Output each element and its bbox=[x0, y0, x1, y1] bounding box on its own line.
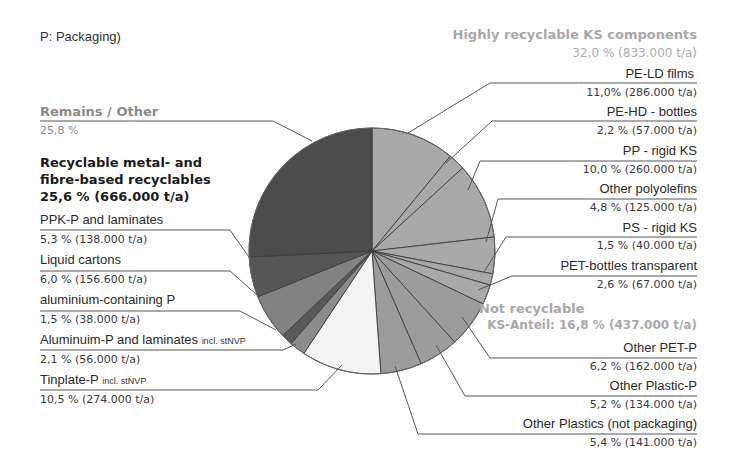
label-tinplate: Tinplate-P incl. stNVP bbox=[40, 373, 146, 386]
label-other-pet-name: Other PET-P bbox=[623, 341, 697, 354]
label-pet-transp-name: PET-bottles transparent bbox=[560, 259, 697, 272]
label-alu-lam: Aluminuim-P and laminates incl. stNVP bbox=[40, 333, 246, 346]
label-alu-cont-name: aluminium-containing P bbox=[40, 293, 175, 306]
label-alu-lam-name: Aluminuim-P and laminates bbox=[40, 332, 198, 347]
group-metal-fibre-label-line2: fibre-based recyclables bbox=[40, 171, 211, 188]
pie-slice-remains-other bbox=[249, 128, 372, 257]
label-ppk-name: PPK-P and laminates bbox=[40, 213, 163, 226]
chart-title: P: Packaging) bbox=[40, 30, 121, 43]
label-pe-ld-name: PE-LD films bbox=[625, 67, 694, 80]
label-other-po-value: 4,8 % (125.000 t/a) bbox=[590, 202, 697, 213]
label-liquid-value: 6,0 % (156.600 t/a) bbox=[40, 274, 147, 285]
label-pe-hd-name: PE-HD - bottles bbox=[607, 105, 697, 118]
group-remains-label: Remains / Other bbox=[40, 105, 158, 118]
label-other-pet-value: 6,2 % (162.000 t/a) bbox=[590, 361, 697, 372]
label-ps-name: PS - rigid KS bbox=[623, 221, 697, 234]
label-other-plastics-value: 5,4 % (141.000 t/a) bbox=[590, 437, 697, 448]
leader-remains bbox=[40, 121, 312, 141]
label-alu-cont-value: 1,5 % (38.000 t/a) bbox=[40, 314, 140, 325]
label-alu-lam-value: 2,1 % (56.000 t/a) bbox=[40, 354, 140, 365]
group-highly-recyclable-value: 32,0 % (833.000 t/a) bbox=[572, 47, 697, 59]
group-highly-recyclable-label: Highly recyclable KS components bbox=[453, 28, 697, 41]
pie-slices bbox=[249, 128, 495, 374]
label-pe-ld-value: 11,0% (286.000 t/a) bbox=[586, 87, 697, 98]
label-pet-transp-value: 2,6 % (67.000 t/a) bbox=[597, 279, 697, 290]
label-pp-name: PP - rigid KS bbox=[623, 144, 697, 157]
label-other-plastic-p-value: 5,2 % (134.000 t/a) bbox=[590, 399, 697, 410]
label-ps-value: 1,5 % (40.000 t/a) bbox=[597, 240, 697, 251]
label-pp-value: 10,0 % (260.000 t/a) bbox=[583, 164, 697, 175]
group-not-recyclable-value: KS-Anteil: 16,8 % (437.000 t/a) bbox=[487, 319, 697, 331]
group-metal-fibre-label-line1: Recyclable metal- and bbox=[40, 154, 202, 171]
label-ppk-value: 5,3 % (138.000 t/a) bbox=[40, 234, 147, 245]
label-pe-hd-value: 2,2 % (57.000 t/a) bbox=[597, 125, 697, 136]
label-tinplate-value: 10,5 % (274.000 t/a) bbox=[40, 394, 154, 405]
group-metal-fibre-value: 25,6 % (666.000 t/a) bbox=[40, 188, 190, 205]
label-other-plastics-name: Other Plastics (not packaging) bbox=[523, 417, 697, 430]
label-tinplate-suffix: incl. stNVP bbox=[102, 376, 146, 386]
group-remains-value: 25,8 % bbox=[40, 125, 78, 136]
label-tinplate-name: Tinplate-P bbox=[40, 372, 99, 387]
label-alu-lam-suffix: incl. stNVP bbox=[202, 336, 246, 346]
group-not-recyclable-label: Not recyclable bbox=[479, 302, 584, 315]
label-liquid-name: Liquid cartons bbox=[40, 253, 121, 266]
label-other-plastic-p-name: Other Plastic-P bbox=[610, 379, 697, 392]
label-other-po-name: Other polyolefins bbox=[599, 182, 697, 195]
